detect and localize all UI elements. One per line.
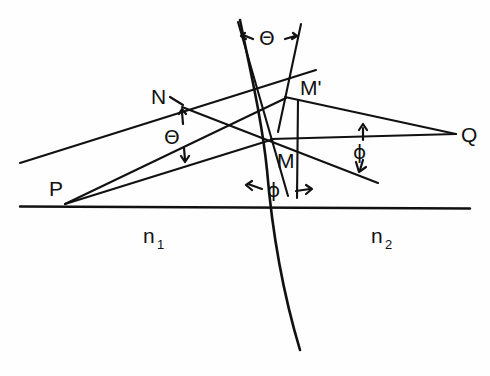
index-label-n1: n 1 [143, 224, 164, 252]
index-label-n2: n 2 [371, 224, 392, 252]
point-label-m-prime: M' [300, 76, 322, 99]
vertical-reference-line [297, 100, 298, 198]
theta-left-upper-arrow-shaft [182, 112, 183, 124]
normal-line-through-m-prime [20, 70, 316, 163]
index-label-n1-base: n [143, 224, 155, 247]
index-label-n2-subscript: 2 [385, 237, 392, 252]
theta-left-lower-arrow-shaft [184, 148, 185, 160]
point-label-q: Q [461, 123, 477, 146]
ray-m-prime-to-q [285, 97, 456, 134]
optical-axis-line [20, 207, 470, 209]
angle-theta-left-label: Θ [164, 125, 180, 149]
index-label-n1-subscript: 1 [157, 237, 164, 252]
point-label-p: P [49, 177, 63, 200]
index-label-n2-base: n [371, 224, 383, 247]
angle-phi-right-label: ϕ [353, 140, 366, 164]
optics-diagram-figure: Θ Θ ϕ ϕ P N M M' [0, 0, 490, 376]
n-label-leader-line [170, 97, 183, 105]
diagram-canvas: Θ Θ ϕ ϕ P N M M' [0, 0, 490, 376]
point-label-m: M [277, 149, 295, 172]
angle-theta-top-label: Θ [259, 26, 275, 50]
angle-phi-bottom-label: ϕ [267, 178, 280, 202]
angle-theta-left-marker [179, 109, 189, 162]
point-label-n: N [151, 85, 166, 108]
